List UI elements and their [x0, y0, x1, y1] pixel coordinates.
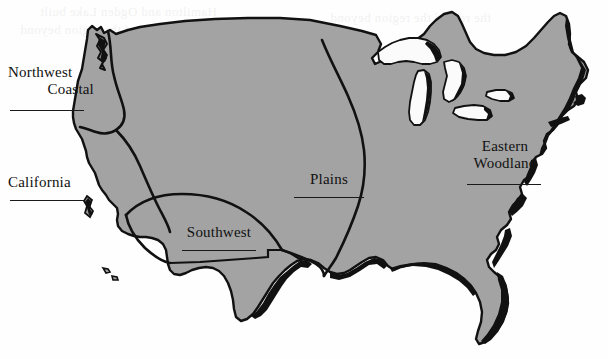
label-northwest-coastal: Northwest Coastal — [8, 64, 94, 111]
label-plains-line1: Plains — [310, 171, 348, 187]
label-northwest-coastal-line2: Coastal — [8, 81, 94, 98]
label-eastern-woodland-rule — [467, 184, 541, 185]
label-california-line1: California — [8, 174, 71, 190]
label-eastern-woodland: Eastern Woodland — [463, 138, 547, 185]
lake-erie — [453, 105, 492, 120]
label-plains: Plains — [297, 171, 361, 198]
label-eastern-woodland-line1: Eastern — [482, 138, 528, 154]
label-southwest-rule — [182, 250, 256, 251]
label-eastern-woodland-line2: Woodland — [463, 155, 547, 172]
label-southwest-line1: Southwest — [187, 224, 251, 240]
label-california-rule — [10, 200, 84, 201]
channel-islands — [103, 268, 110, 273]
label-southwest: Southwest — [176, 224, 262, 251]
santa-catalina-island — [112, 276, 118, 280]
label-northwest-coastal-rule — [10, 110, 84, 111]
label-california: California — [8, 174, 96, 201]
map-figure: Hamilton and Ogden Lake built the rest o… — [0, 0, 608, 359]
label-northwest-coastal-line1: Northwest — [8, 64, 72, 80]
label-plains-rule — [294, 197, 364, 198]
